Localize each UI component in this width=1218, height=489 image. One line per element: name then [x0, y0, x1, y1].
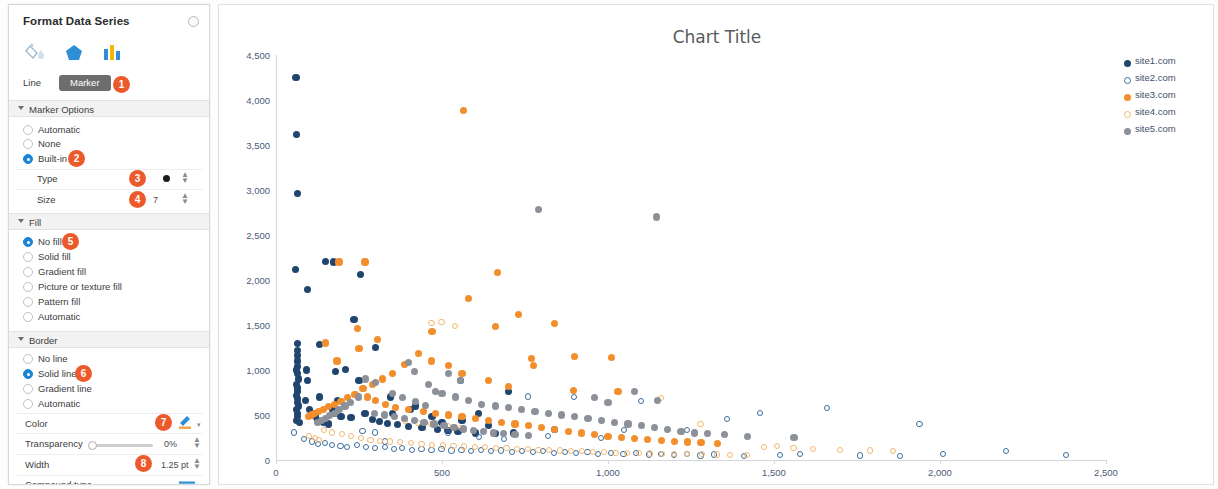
scatter-point[interactable] — [361, 258, 368, 265]
scatter-point[interactable] — [458, 413, 465, 420]
scatter-point[interactable] — [671, 451, 677, 457]
scatter-point[interactable] — [337, 413, 344, 420]
scatter-point[interactable] — [636, 450, 642, 456]
legend-item-site4-com[interactable]: site4.com — [1124, 106, 1214, 123]
scatter-point[interactable] — [644, 436, 651, 443]
scatter-point[interactable] — [452, 393, 459, 400]
scatter-point[interactable] — [659, 451, 665, 457]
scatter-point[interactable] — [608, 354, 615, 361]
scatter-point[interactable] — [797, 451, 803, 457]
scatter-point[interactable] — [621, 427, 627, 433]
border-width-value[interactable]: 1.25 pt — [161, 460, 189, 470]
scatter-point[interactable] — [415, 350, 422, 357]
scatter-point[interactable] — [304, 377, 311, 384]
scatter-point[interactable] — [348, 433, 354, 439]
scatter-point[interactable] — [664, 426, 671, 433]
scatter-point[interactable] — [897, 453, 903, 459]
transparency-slider[interactable] — [91, 444, 153, 447]
scatter-point[interactable] — [535, 447, 541, 453]
scatter-point[interactable] — [584, 415, 591, 422]
scatter-point[interactable] — [598, 435, 604, 441]
scatter-point[interactable] — [450, 424, 457, 431]
scatter-point[interactable] — [551, 426, 558, 433]
scatter-point[interactable] — [428, 320, 434, 326]
marker-size-stepper[interactable]: ▲▼ — [181, 193, 188, 207]
scatter-point[interactable] — [405, 423, 412, 430]
scatter-point[interactable] — [354, 442, 360, 448]
scatter-point[interactable] — [322, 440, 328, 446]
scatter-point[interactable] — [445, 370, 452, 377]
scatter-point[interactable] — [371, 410, 378, 417]
scatter-point[interactable] — [671, 438, 678, 445]
scatter-point[interactable] — [452, 323, 458, 329]
scatter-point[interactable] — [460, 107, 467, 114]
chart-legend[interactable]: site1.comsite2.comsite3.comsite4.comsite… — [1124, 55, 1214, 140]
scatter-point[interactable] — [445, 411, 452, 418]
scatter-point[interactable] — [354, 325, 361, 332]
scatter-point[interactable] — [391, 446, 397, 452]
scatter-point[interactable] — [857, 452, 863, 458]
scatter-point[interactable] — [291, 429, 297, 435]
scatter-point[interactable] — [322, 258, 329, 265]
scatter-point[interactable] — [304, 286, 311, 293]
legend-item-site3-com[interactable]: site3.com — [1124, 89, 1214, 106]
close-icon[interactable] — [188, 16, 199, 27]
scatter-point[interactable] — [401, 415, 408, 422]
scatter-point[interactable] — [333, 357, 340, 364]
scatter-point[interactable] — [438, 319, 444, 325]
scatter-point[interactable] — [472, 444, 478, 450]
scatter-point[interactable] — [457, 377, 464, 384]
scatter-point[interactable] — [890, 448, 896, 454]
scatter-point[interactable] — [294, 190, 301, 197]
scatter-point[interactable] — [677, 428, 684, 435]
scatter-point[interactable] — [867, 447, 873, 453]
scatter-point[interactable] — [428, 357, 435, 364]
scatter-point[interactable] — [503, 445, 509, 451]
scatter-point[interactable] — [511, 431, 518, 438]
scatter-point[interactable] — [653, 213, 660, 220]
scatter-point[interactable] — [1063, 452, 1069, 458]
scatter-point[interactable] — [394, 421, 401, 428]
scatter-point[interactable] — [691, 429, 698, 436]
scatter-point[interactable] — [359, 385, 366, 392]
scatter-point[interactable] — [638, 398, 644, 404]
scatter-point[interactable] — [601, 449, 607, 455]
scatter-point[interactable] — [411, 368, 418, 375]
scatter-point[interactable] — [744, 433, 751, 440]
scatter-point[interactable] — [292, 266, 299, 273]
scatter-point[interactable] — [389, 370, 396, 377]
scatter-point[interactable] — [440, 442, 446, 448]
scatter-point[interactable] — [292, 74, 299, 81]
scatter-point[interactable] — [369, 416, 376, 423]
scatter-point[interactable] — [571, 413, 578, 420]
series-options-icon[interactable] — [99, 41, 125, 65]
scatter-point[interactable] — [382, 401, 389, 408]
scatter-point[interactable] — [350, 316, 357, 323]
scatter-point[interactable] — [790, 434, 797, 441]
scatter-point[interactable] — [824, 405, 830, 411]
scatter-point[interactable] — [631, 435, 638, 442]
scatter-point[interactable] — [485, 417, 492, 424]
scatter-point[interactable] — [492, 402, 499, 409]
legend-item-site2-com[interactable]: site2.com — [1124, 72, 1214, 89]
scatter-point[interactable] — [296, 419, 303, 426]
scatter-point[interactable] — [744, 452, 750, 458]
transparency-slider-knob[interactable] — [88, 441, 97, 450]
scatter-point[interactable] — [430, 420, 437, 427]
scatter-point[interactable] — [412, 398, 419, 405]
scatter-point[interactable] — [347, 414, 354, 421]
scatter-point[interactable] — [647, 450, 653, 456]
scatter-point[interactable] — [598, 417, 605, 424]
scatter-point[interactable] — [570, 387, 577, 394]
scatter-point[interactable] — [342, 366, 349, 373]
effects-icon[interactable] — [61, 41, 87, 65]
scatter-point[interactable] — [381, 411, 388, 418]
scatter-point[interactable] — [316, 393, 323, 400]
scatter-point[interactable] — [372, 344, 379, 351]
scatter-point[interactable] — [329, 442, 335, 448]
scatter-point[interactable] — [321, 427, 327, 433]
scatter-point[interactable] — [611, 419, 618, 426]
scatter-point[interactable] — [591, 394, 598, 401]
scatter-point[interactable] — [332, 368, 339, 375]
scatter-point[interactable] — [408, 440, 414, 446]
